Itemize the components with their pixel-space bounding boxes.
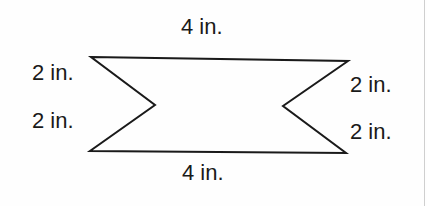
label-right-lower-side: 2 in. bbox=[350, 121, 392, 143]
page-edge-divider bbox=[424, 0, 425, 206]
label-left-upper-side: 2 in. bbox=[32, 62, 74, 84]
label-top-side: 4 in. bbox=[181, 16, 223, 38]
label-right-upper-side: 2 in. bbox=[350, 74, 392, 96]
label-bottom-side: 4 in. bbox=[182, 162, 224, 184]
hexagon-outline bbox=[90, 57, 348, 153]
label-left-lower-side: 2 in. bbox=[32, 110, 74, 132]
diagram-canvas: 4 in. 2 in. 2 in. 2 in. 2 in. 4 in. bbox=[0, 0, 427, 206]
